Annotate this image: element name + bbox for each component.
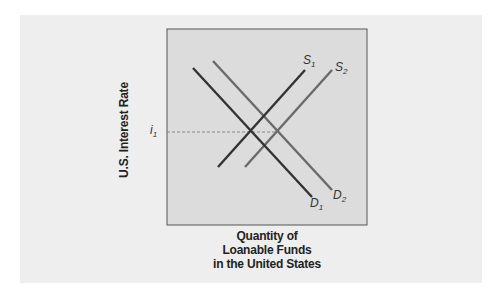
i1-tick-label: i1: [150, 123, 157, 139]
x-axis-label-line-1: Quantity of: [213, 229, 321, 243]
x-axis-label-line-3: in the United States: [213, 257, 321, 271]
x-axis-label: Quantity of Loanable Funds in the United…: [213, 229, 321, 271]
y-axis-label: U.S. Interest Rate: [117, 82, 131, 178]
x-axis-label-line-2: Loanable Funds: [213, 243, 321, 257]
